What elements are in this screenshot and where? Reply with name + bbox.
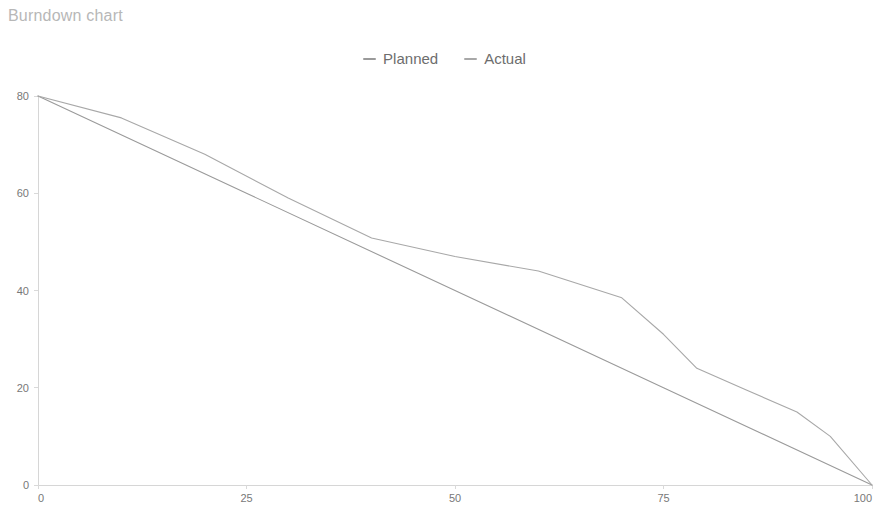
- data-series-group: [38, 96, 872, 485]
- x-tick-label: 100: [854, 492, 872, 504]
- chart-plot-area: 0255075100 020406080: [0, 0, 889, 509]
- y-tick-label: 60: [17, 187, 29, 199]
- x-tick-label: 75: [657, 492, 669, 504]
- x-tick-label: 0: [38, 492, 44, 504]
- series-line-planned: [38, 96, 872, 485]
- y-tick-label: 40: [17, 285, 29, 297]
- burndown-chart-card: Burndown chart Planned Actual 0255075100…: [0, 0, 889, 509]
- x-axis-ticks: 0255075100: [38, 485, 872, 504]
- x-tick-label: 50: [449, 492, 461, 504]
- y-tick-label: 0: [23, 479, 29, 491]
- y-tick-label: 80: [17, 90, 29, 102]
- x-tick-label: 25: [240, 492, 252, 504]
- y-axis-ticks: 020406080: [17, 90, 38, 491]
- y-tick-label: 20: [17, 382, 29, 394]
